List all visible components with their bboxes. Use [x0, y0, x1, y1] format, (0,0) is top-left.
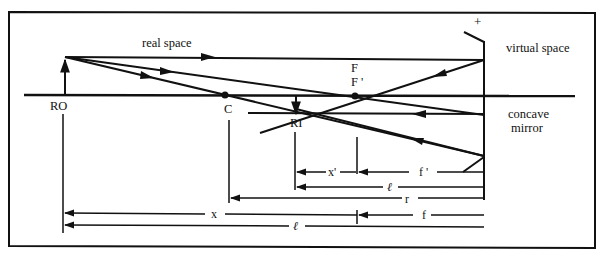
concave-mirror-label: mirror: [511, 121, 544, 135]
mirror-top-tick: [464, 32, 484, 42]
f-label: f: [422, 208, 426, 222]
center-point: [222, 92, 229, 99]
mirror-bottom-tick: [463, 157, 484, 172]
ray-focus-reflected: [248, 113, 484, 114]
ray-parallel-incident: [65, 57, 484, 60]
focus-prime-label: F ': [351, 75, 363, 89]
optical-axis: [24, 95, 575, 96]
ray-arrowhead: [412, 110, 426, 118]
dimension-line-x: [225, 214, 357, 215]
focus-label: F: [351, 61, 358, 75]
mirror-ray-diagram: real space virtual space concave mirror …: [0, 0, 601, 257]
ray-center-reflected: [296, 109, 484, 156]
concave-mirror-label: concave: [508, 107, 549, 121]
x-prime-label: x': [328, 165, 336, 179]
ray-arrowhead: [432, 69, 447, 77]
ray-arrowhead: [201, 53, 215, 61]
r-label: r: [405, 192, 409, 206]
l-image-label: ℓ: [387, 180, 392, 194]
ray-arrowhead: [140, 71, 154, 79]
f-prime-label: f ': [419, 165, 428, 179]
dimension-line-l-object: [65, 225, 289, 226]
x-label: x: [211, 207, 217, 221]
dimension-line-x: [65, 213, 205, 214]
real-space-label: real space: [142, 36, 192, 50]
plus-sign-label: +: [474, 14, 481, 29]
dimension-line-l-object: [305, 226, 484, 227]
virtual-space-label: virtual space: [506, 41, 570, 55]
center-label: C: [224, 102, 232, 116]
real-image-label: RI: [290, 116, 303, 130]
ray-arrowhead: [410, 138, 424, 145]
focus-point: [352, 93, 359, 100]
real-object-label: RO: [50, 99, 67, 113]
l-object-label: ℓ: [293, 219, 298, 233]
